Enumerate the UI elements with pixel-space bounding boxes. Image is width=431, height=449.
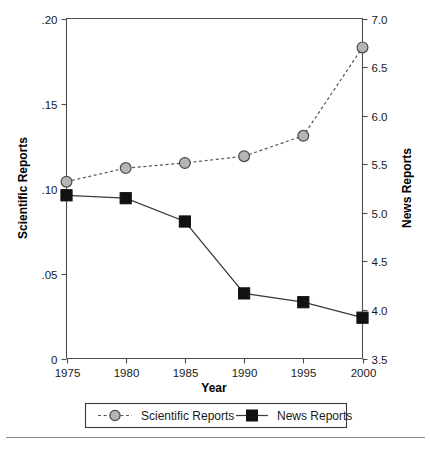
x-tick-label: 1985 xyxy=(173,367,199,379)
x-axis-ticks: 197519801985199019952000 xyxy=(55,359,377,379)
data-point-marker xyxy=(298,297,309,308)
chart-legend: Scientific Reports News Reports xyxy=(86,404,353,428)
x-tick-label: 2000 xyxy=(351,367,377,379)
data-series-layer xyxy=(61,42,368,323)
chart-figure: 0.05.10.15.20 3.54.04.55.05.56.06.57.0 1… xyxy=(0,0,431,449)
data-point-marker xyxy=(357,312,368,323)
legend-label-news-reports: News Reports xyxy=(277,409,352,423)
x-axis-title: Year xyxy=(201,381,227,395)
right-tick-label: 5.0 xyxy=(372,208,388,220)
data-point-marker xyxy=(120,163,131,174)
data-point-marker xyxy=(179,216,190,227)
right-tick-label: 6.0 xyxy=(372,111,388,123)
data-point-marker xyxy=(61,190,72,201)
right-tick-label: 6.5 xyxy=(372,62,388,74)
data-point-marker xyxy=(180,158,191,169)
right-tick-label: 4.5 xyxy=(372,256,388,268)
x-tick-label: 1975 xyxy=(55,367,81,379)
x-tick-label: 1980 xyxy=(114,367,140,379)
data-point-marker xyxy=(239,288,250,299)
right-tick-label: 3.5 xyxy=(372,354,388,366)
legend-label-scientific-reports: Scientific Reports xyxy=(141,409,234,423)
data-point-marker xyxy=(120,193,131,204)
axes-frame xyxy=(67,18,363,359)
x-tick-label: 1995 xyxy=(291,367,317,379)
left-tick-label: .10 xyxy=(42,184,58,196)
left-tick-label: .20 xyxy=(42,14,58,26)
data-point-marker xyxy=(298,130,309,141)
data-point-marker xyxy=(239,151,250,162)
y2-axis-title: News Reports xyxy=(400,148,414,228)
right-tick-label: 4.0 xyxy=(372,305,388,317)
right-tick-label: 7.0 xyxy=(372,14,388,26)
series-line-news-reports xyxy=(67,195,363,317)
legend-entry-news-reports: News Reports xyxy=(236,409,352,423)
left-tick-label: .05 xyxy=(42,269,58,281)
series-line-scientific-reports xyxy=(67,47,363,181)
chart-canvas: 0.05.10.15.20 3.54.04.55.05.56.06.57.0 1… xyxy=(0,0,431,449)
data-point-marker xyxy=(357,42,368,53)
left-tick-label: .15 xyxy=(42,99,58,111)
legend-sci-circle-marker xyxy=(110,410,120,420)
y-axis-title: Scientific Reports xyxy=(16,137,30,239)
left-tick-label: 0 xyxy=(51,354,57,366)
x-tick-label: 1990 xyxy=(232,367,258,379)
data-point-marker xyxy=(61,176,72,187)
right-tick-label: 5.5 xyxy=(372,159,388,171)
legend-news-square-marker xyxy=(247,410,258,421)
